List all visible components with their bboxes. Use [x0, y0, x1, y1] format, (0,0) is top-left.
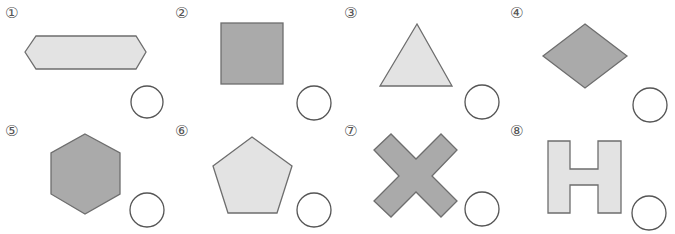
rhombus-shape — [543, 24, 627, 88]
answer-circle-4[interactable] — [633, 88, 667, 122]
h-shape — [548, 141, 621, 213]
answer-circle-2[interactable] — [297, 86, 331, 120]
answer-circle-1[interactable] — [131, 86, 163, 118]
hexagon-shape — [51, 134, 120, 214]
square-shape — [221, 23, 283, 84]
x-cross-shape — [374, 134, 457, 217]
triangle-shape — [380, 24, 452, 86]
pentagon-shape — [213, 137, 292, 213]
shapes-canvas — [0, 0, 675, 234]
elongated-hexagon-shape — [25, 36, 146, 69]
answer-circle-8[interactable] — [632, 196, 666, 230]
answer-circle-5[interactable] — [130, 193, 164, 227]
answer-circle-7[interactable] — [465, 192, 499, 226]
answer-circle-6[interactable] — [297, 193, 331, 227]
answer-circle-3[interactable] — [465, 85, 499, 119]
